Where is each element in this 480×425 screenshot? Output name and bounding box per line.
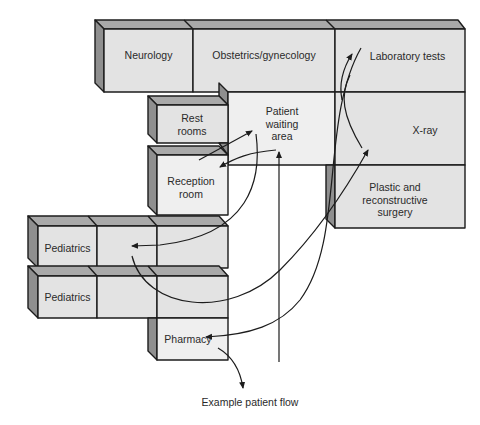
room-plastic-surgery [335,165,465,228]
room-waiting-area [228,92,335,165]
block-pediatrics-row-2 [28,266,228,318]
floor-plan-diagram: Neurology Obstetrics/gynecology Laborato… [0,0,480,425]
room-xray [335,92,465,165]
block-reception [148,143,228,215]
block-pediatrics-row-1 [28,216,228,268]
block-top-row [95,20,465,92]
room-neurology [104,29,193,92]
room-obstetrics [193,29,335,92]
room-restrooms [157,105,228,143]
room-reception [157,155,228,215]
block-restrooms [148,96,228,143]
room-pharmacy [157,318,228,360]
room-pediatrics-1 [38,226,97,268]
room-pediatrics-2 [38,276,97,318]
block-pharmacy [148,318,228,360]
